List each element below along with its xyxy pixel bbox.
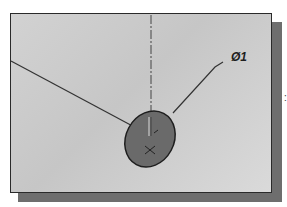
dimension-label[interactable]: Ø1 [231,50,247,64]
hole-ellipse[interactable] [115,102,185,176]
sketch-line-left[interactable] [11,61,140,130]
sketch-canvas [0,0,287,207]
dimension-leader [173,62,223,113]
side-mark: : [284,92,287,103]
